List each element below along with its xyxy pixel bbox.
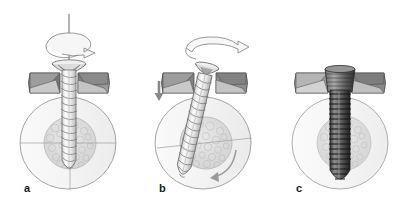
panel-b: b	[136, 0, 272, 220]
rotation-arrow-a	[46, 33, 95, 58]
rotation-arrow-b	[186, 37, 249, 59]
panel-label-b: b	[159, 183, 166, 194]
surgical-screw-insertion-figure: a	[0, 0, 408, 220]
panel-c-illustration	[272, 0, 408, 220]
panel-a: a	[0, 0, 136, 220]
panel-a-illustration	[0, 0, 136, 220]
panel-label-a: a	[24, 183, 30, 194]
panel-c: c	[272, 0, 408, 220]
panel-b-illustration	[136, 0, 272, 220]
panel-label-c: c	[296, 183, 302, 194]
